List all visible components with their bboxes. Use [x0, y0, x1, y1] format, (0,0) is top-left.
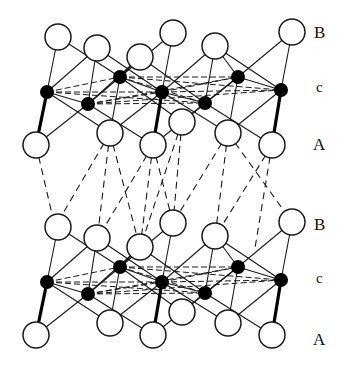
- atom-B-open-circle: [84, 225, 110, 251]
- layer-label-a: A: [313, 331, 325, 348]
- layer-label-b: B: [314, 24, 325, 41]
- atom-A-open-circle: [23, 322, 49, 348]
- atom-c-filled-circle: [81, 97, 95, 111]
- atom-B-open-circle: [202, 33, 228, 59]
- atom-c-filled-circle: [81, 287, 95, 301]
- atom-A-open-circle: [140, 322, 166, 348]
- atom-B-open-circle: [279, 19, 305, 45]
- atom-A-open-circle: [97, 120, 123, 146]
- atom-B-open-circle: [160, 20, 186, 46]
- interlayer-bond: [215, 133, 228, 237]
- interlayer-bond: [97, 133, 110, 240]
- atom-B-open-circle: [160, 210, 186, 236]
- atom-c-filled-circle: [113, 260, 127, 274]
- c-layer-dashed-bond: [120, 77, 281, 90]
- atom-A-open-circle: [140, 132, 166, 158]
- atom-c-filled-circle: [40, 85, 54, 99]
- layer-label-c: c: [316, 80, 323, 95]
- atom-A-open-circle: [215, 310, 241, 336]
- atom-c-filled-circle: [274, 273, 288, 287]
- atom-c-filled-circle: [198, 96, 212, 110]
- atom-B-open-circle: [127, 234, 153, 260]
- atom-B-open-circle: [202, 223, 228, 249]
- atom-B-open-circle: [127, 44, 153, 70]
- layer-label-a: A: [313, 136, 325, 153]
- atom-c-filled-circle: [155, 85, 169, 99]
- interlayer-bond: [255, 145, 272, 248]
- structure-units: [23, 19, 305, 348]
- unit-2: [23, 209, 305, 348]
- interlayer-bond: [55, 133, 110, 227]
- atom-B-open-circle: [279, 209, 305, 235]
- atom-B-open-circle: [45, 214, 71, 240]
- c-layer-dashed-bond: [162, 77, 238, 92]
- atom-A-open-circle: [169, 109, 195, 135]
- atom-c-filled-circle: [113, 70, 127, 84]
- interlayer-bond: [110, 133, 140, 248]
- atom-A-open-circle: [169, 299, 195, 325]
- c-layer-dashed-bond: [162, 267, 238, 282]
- atom-B-open-circle: [45, 24, 71, 50]
- atom-c-filled-circle: [198, 286, 212, 300]
- atom-A-open-circle: [259, 322, 285, 348]
- atom-c-filled-circle: [40, 275, 54, 289]
- atom-c-filled-circle: [274, 83, 288, 97]
- c-layer-dashed-bond: [120, 267, 281, 280]
- atom-A-open-circle: [23, 132, 49, 158]
- crystal-structure-diagram: [0, 0, 350, 376]
- atom-A-open-circle: [215, 120, 241, 146]
- atom-c-filled-circle: [155, 275, 169, 289]
- atom-A-open-circle: [97, 310, 123, 336]
- atom-B-open-circle: [84, 35, 110, 61]
- interlayer-bond: [173, 133, 228, 223]
- interlayer-bond: [215, 145, 272, 237]
- layer-label-c: c: [316, 271, 323, 286]
- atom-c-filled-circle: [231, 260, 245, 274]
- atom-A-open-circle: [259, 132, 285, 158]
- atom-c-filled-circle: [231, 70, 245, 84]
- interlayer-bond: [140, 145, 153, 248]
- layer-label-b: B: [314, 216, 325, 233]
- unit-1: [23, 19, 305, 158]
